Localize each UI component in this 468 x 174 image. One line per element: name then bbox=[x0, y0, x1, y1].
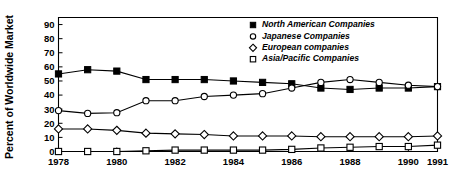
marker-open-square bbox=[230, 147, 236, 153]
marker-open-square bbox=[318, 145, 324, 151]
marker-open-diamond bbox=[258, 132, 266, 140]
legend-item-asia-pacific-companies: Asia/Pacific Companies bbox=[250, 53, 359, 63]
y-tick-label: 20 bbox=[44, 118, 55, 129]
x-tick-label: 1984 bbox=[223, 156, 245, 167]
marker-open-square bbox=[250, 57, 255, 62]
series-asia-pacific-companies bbox=[55, 142, 440, 155]
marker-open-circle bbox=[201, 93, 207, 99]
marker-open-circle bbox=[85, 110, 91, 116]
x-tick-label: 1986 bbox=[281, 156, 302, 167]
x-tick-label: 1982 bbox=[165, 156, 186, 167]
marker-open-circle bbox=[230, 92, 236, 98]
marker-open-diamond bbox=[142, 129, 150, 137]
y-tick-label: 80 bbox=[44, 33, 55, 44]
marker-open-circle bbox=[259, 91, 265, 97]
marker-open-circle bbox=[55, 107, 61, 113]
legend-item-japanese-companies: Japanese Companies bbox=[250, 31, 350, 41]
marker-open-diamond bbox=[249, 44, 256, 51]
marker-filled-square bbox=[85, 67, 91, 73]
y-tick-label: 60 bbox=[44, 61, 55, 72]
marker-open-circle bbox=[250, 34, 255, 39]
marker-open-diamond bbox=[171, 130, 179, 138]
marker-open-diamond bbox=[54, 125, 62, 133]
legend-item-european-companies: European companies bbox=[249, 42, 349, 52]
y-tick-label: 30 bbox=[44, 104, 55, 115]
marker-open-square bbox=[201, 147, 207, 153]
marker-open-diamond bbox=[317, 133, 325, 141]
marker-open-square bbox=[143, 148, 149, 154]
y-tick-label: 10 bbox=[44, 132, 55, 143]
y-tick-label: 70 bbox=[44, 47, 55, 58]
x-tick-label: 1990 bbox=[398, 156, 419, 167]
marker-filled-square bbox=[143, 76, 149, 82]
marker-open-diamond bbox=[84, 125, 92, 133]
marker-open-circle bbox=[434, 84, 440, 90]
x-tick-label: 1991 bbox=[427, 156, 449, 167]
marker-open-circle bbox=[114, 110, 120, 116]
marker-open-diamond bbox=[433, 132, 441, 140]
marker-open-square bbox=[85, 148, 91, 154]
marker-filled-square bbox=[172, 76, 178, 82]
marker-open-circle bbox=[347, 76, 353, 82]
legend-label: European companies bbox=[262, 42, 349, 52]
marker-open-diamond bbox=[375, 133, 383, 141]
y-tick-label: 40 bbox=[44, 89, 55, 100]
marker-open-square bbox=[347, 144, 353, 150]
marker-open-circle bbox=[405, 82, 411, 88]
marker-open-square bbox=[434, 142, 440, 148]
x-tick-label: 1988 bbox=[339, 156, 360, 167]
x-tick-label: 1978 bbox=[48, 156, 69, 167]
marker-open-circle bbox=[289, 85, 295, 91]
legend-label: Japanese Companies bbox=[262, 31, 350, 41]
marker-filled-square bbox=[201, 76, 207, 82]
marker-open-square bbox=[55, 148, 61, 154]
marker-open-square bbox=[172, 147, 178, 153]
marker-filled-square bbox=[347, 86, 353, 92]
marker-open-circle bbox=[318, 79, 324, 85]
line-chart: 0102030405060708090 19781980198219841986… bbox=[0, 0, 468, 174]
y-axis-ticks: 0102030405060708090 bbox=[44, 19, 63, 157]
legend-item-north-american-companies: North American Companies bbox=[250, 19, 375, 29]
marker-open-circle bbox=[376, 79, 382, 85]
marker-open-diamond bbox=[404, 133, 412, 141]
series-european-companies bbox=[54, 125, 441, 141]
marker-filled-square bbox=[230, 78, 236, 84]
series-layer bbox=[54, 67, 441, 155]
chart-figure: 0102030405060708090 19781980198219841986… bbox=[0, 0, 468, 174]
legend-label: Asia/Pacific Companies bbox=[261, 53, 359, 63]
marker-open-diamond bbox=[229, 132, 237, 140]
marker-filled-square bbox=[114, 68, 120, 74]
marker-open-square bbox=[114, 148, 120, 154]
marker-open-square bbox=[259, 147, 265, 153]
marker-filled-square bbox=[55, 71, 61, 77]
marker-open-diamond bbox=[113, 126, 121, 134]
marker-open-diamond bbox=[288, 132, 296, 140]
series-north-american-companies bbox=[55, 67, 440, 93]
marker-open-square bbox=[289, 146, 295, 152]
marker-filled-square bbox=[259, 79, 265, 85]
marker-open-square bbox=[405, 143, 411, 149]
marker-filled-square bbox=[250, 22, 255, 27]
marker-open-square bbox=[376, 143, 382, 149]
y-tick-label: 90 bbox=[44, 19, 55, 30]
series-japanese-companies bbox=[55, 76, 440, 116]
y-axis-title: Percent of Worldwide Market bbox=[3, 15, 15, 159]
chart-legend: North American CompaniesJapanese Compani… bbox=[249, 19, 375, 63]
y-tick-label: 50 bbox=[44, 75, 55, 86]
marker-open-diamond bbox=[346, 133, 354, 141]
x-tick-label: 1980 bbox=[106, 156, 127, 167]
marker-open-circle bbox=[172, 98, 178, 104]
marker-open-diamond bbox=[200, 130, 208, 138]
marker-open-circle bbox=[143, 98, 149, 104]
legend-label: North American Companies bbox=[262, 19, 375, 29]
